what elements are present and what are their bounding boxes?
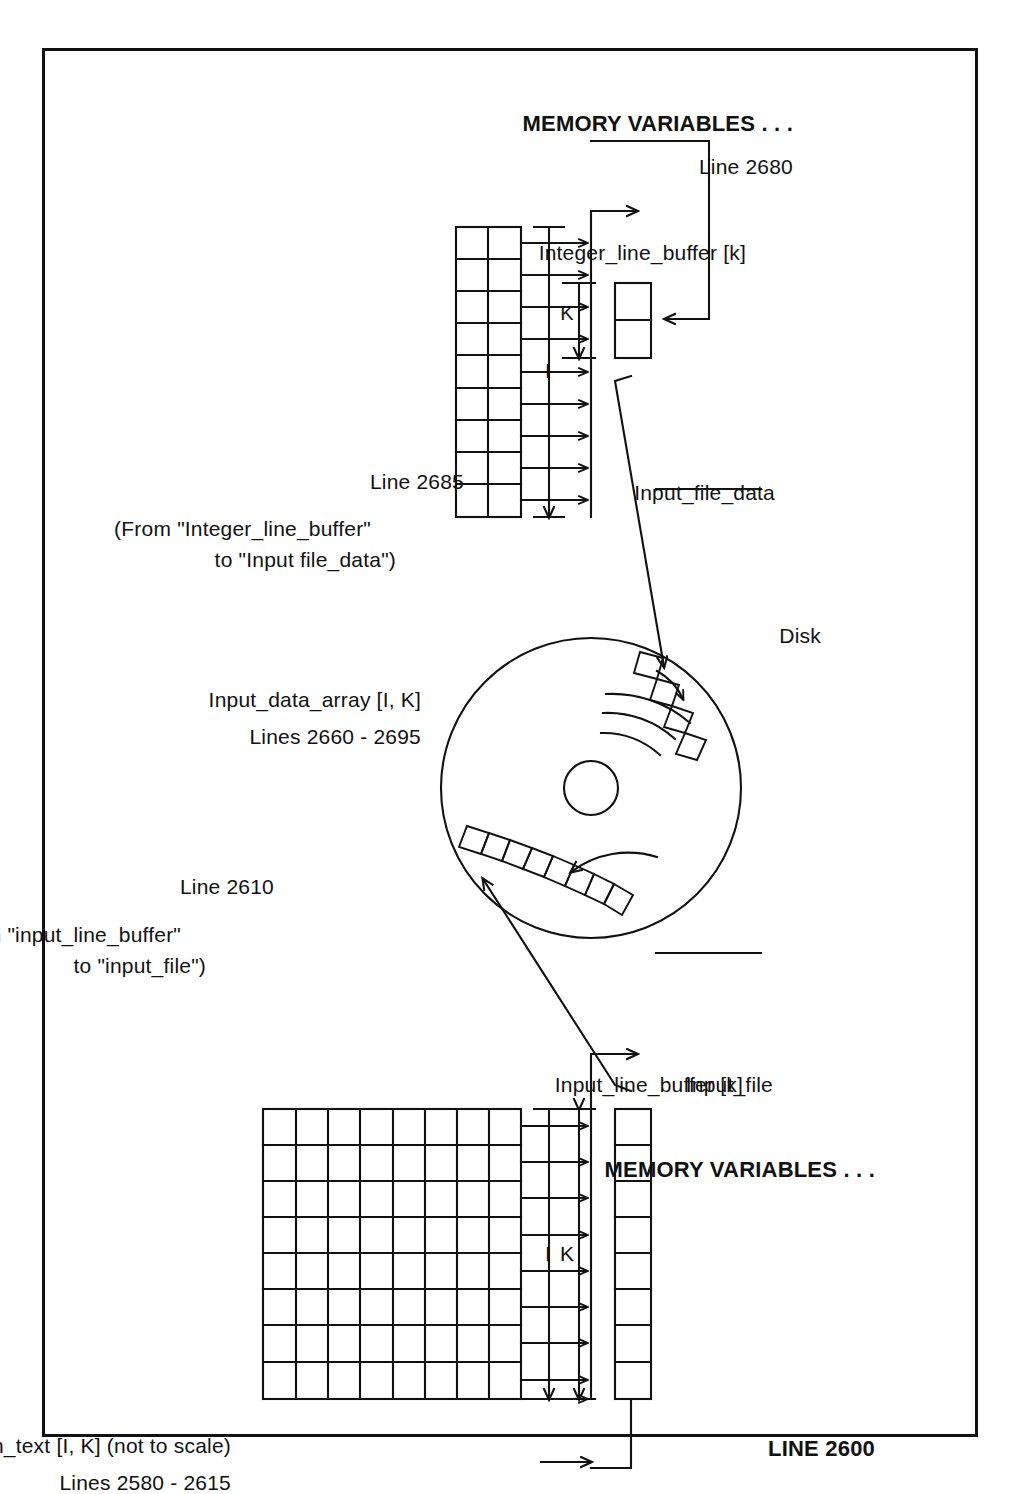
screen-text-label: Screen_text [I, K] (not to scale) <box>0 1434 231 1458</box>
disk-graphic <box>441 638 741 938</box>
line-2610-label: Line 2610 <box>180 875 274 899</box>
diagram-artwork <box>45 51 1016 1494</box>
right-dim-i-label: I <box>545 360 551 383</box>
right-line-label: Line 2680 <box>699 155 793 179</box>
integer-line-buffer-cells <box>615 283 651 358</box>
disk-label: Disk <box>779 624 821 648</box>
line-2610-to: to "input_file") <box>73 954 206 978</box>
input-file-data-label: Input_file_data <box>634 481 775 505</box>
input-data-array-grid <box>456 227 521 517</box>
input-data-array-lines: Lines 2660 - 2695 <box>249 725 421 749</box>
left-dim-k-label: K <box>560 1242 574 1266</box>
left-memory-heading: MEMORY VARIABLES . . . <box>605 1157 875 1183</box>
diagram-canvas: MEMORY VARIABLES . . . Line 2680 Integer… <box>45 51 1016 1494</box>
input-file-label: Input_file <box>686 1073 773 1097</box>
diagram-frame-border: MEMORY VARIABLES . . . Line 2680 Integer… <box>42 48 978 1437</box>
screen-text-grid <box>263 1109 521 1399</box>
screen-text-lines: Lines 2580 - 2615 <box>59 1471 231 1494</box>
line-2610-from: (From "input_line_buffer" <box>0 923 181 947</box>
left-line-label: LINE 2600 <box>768 1436 875 1462</box>
input-data-array-label: Input_data_array [I, K] <box>209 688 421 712</box>
left-dim-i-label: I <box>545 1242 551 1266</box>
right-buffer-label: Integer_line_buffer [k] <box>539 241 746 265</box>
input-line-buffer-cells <box>615 1109 651 1399</box>
line-2685-from: (From "Integer_line_buffer" <box>114 517 371 541</box>
screen-text-output-arrows <box>521 1126 587 1399</box>
line-2685-connector <box>615 376 664 667</box>
disk-sector-band-lower <box>459 826 633 915</box>
right-memory-heading: MEMORY VARIABLES . . . <box>523 111 793 137</box>
line-2600-feed <box>591 1399 631 1468</box>
line-2685-to: to "Input file_data") <box>215 548 396 572</box>
right-dim-k-label: K <box>560 302 574 325</box>
line-2685-label: Line 2685 <box>370 470 464 494</box>
input-data-array-output-arrows <box>521 243 587 500</box>
